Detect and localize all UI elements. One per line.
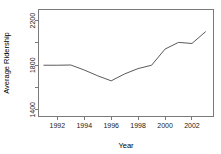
chart-container: 140018002200 199219941996199820002002 Ye… — [0, 0, 221, 154]
y-tick-label: 1400 — [29, 102, 36, 118]
x-axis-title: Year — [118, 141, 134, 150]
x-tick-label: 2002 — [184, 122, 200, 129]
line-chart: 140018002200 199219941996199820002002 Ye… — [0, 0, 221, 154]
x-tick-label: 2000 — [157, 122, 173, 129]
x-tick-label: 1992 — [50, 122, 66, 129]
y-tick-label: 1800 — [29, 57, 36, 73]
x-tick-label: 1996 — [103, 122, 119, 129]
x-tick-label: 1998 — [130, 122, 146, 129]
y-axis-title: Average Ridership — [2, 32, 11, 94]
x-tick-label: 1994 — [76, 122, 92, 129]
y-tick-label: 2200 — [29, 13, 36, 29]
